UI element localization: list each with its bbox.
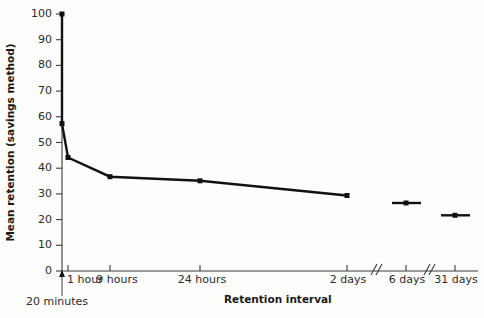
y-tick-label: 60 — [38, 110, 52, 123]
y-tick-label: 0 — [45, 264, 52, 277]
y-tick-label: 10 — [38, 238, 52, 251]
y-tick-label: 20 — [38, 213, 52, 226]
x-tick-label: 2 days — [330, 273, 367, 286]
x-tick-label: 31 days — [434, 273, 478, 286]
x-tick-label: 9 hours — [96, 273, 138, 286]
data-point-9-hours — [108, 174, 113, 179]
x-tick-label: 6 days — [389, 273, 426, 286]
y-tick-label: 50 — [38, 136, 52, 149]
data-point-24-hours — [198, 178, 203, 183]
x-axis-title: Retention interval — [224, 293, 332, 305]
y-tick-label: 100 — [31, 7, 52, 20]
data-point-1-hour — [66, 155, 71, 160]
data-point-6-days — [404, 201, 409, 206]
y-tick-label: 90 — [38, 33, 52, 46]
data-point-20-minutes — [60, 121, 65, 126]
y-tick-label: 80 — [38, 58, 52, 71]
forgetting-curve-chart: 100 90 80 70 60 50 40 30 20 10 0 — [0, 0, 484, 318]
data-point-immediate — [60, 12, 65, 17]
annotation-20-minutes-label: 20 minutes — [26, 295, 88, 308]
x-tick-label: 24 hours — [178, 273, 227, 286]
y-tick-label: 40 — [38, 161, 52, 174]
chart-svg: 100 90 80 70 60 50 40 30 20 10 0 — [0, 0, 484, 318]
data-point-2-days — [345, 193, 350, 198]
y-axis-title: Mean retention (savings method) — [4, 43, 16, 241]
data-point-31-days — [453, 213, 458, 218]
y-tick-label: 70 — [38, 84, 52, 97]
y-tick-label: 30 — [38, 187, 52, 200]
